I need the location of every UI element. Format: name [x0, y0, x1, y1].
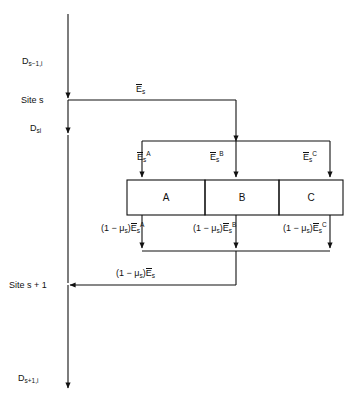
axis-label-d-prev: Ds−1,i [22, 57, 42, 66]
axis-label-d-next: Ds+1,i [18, 374, 38, 383]
box-label-a: A [127, 192, 205, 203]
box-label-c: C [279, 192, 343, 203]
site-label-s: Site s [21, 95, 44, 105]
inflow-label: Es [136, 84, 145, 94]
axis-label-d-current: Dsi [30, 124, 41, 133]
site-energy-flow-diagram: Ds−1,i Dsi Ds+1,i Site s Site s + 1 Es E… [0, 0, 356, 404]
branch-input-label-c: EsC [303, 152, 317, 162]
branch-output-label-c: (1 − μs)EsC [283, 223, 327, 233]
site-label-s-plus-1: Site s + 1 [9, 280, 47, 290]
branch-output-label-a: (1 − μs)EsA [101, 223, 144, 233]
branch-input-label-b: EsB [210, 152, 224, 162]
box-label-b: B [205, 192, 279, 203]
branch-output-label-b: (1 − μs)EsB [193, 223, 236, 233]
return-flow-label: (1 − μs)Es [116, 268, 155, 278]
branch-input-label-a: EsA [137, 152, 151, 162]
